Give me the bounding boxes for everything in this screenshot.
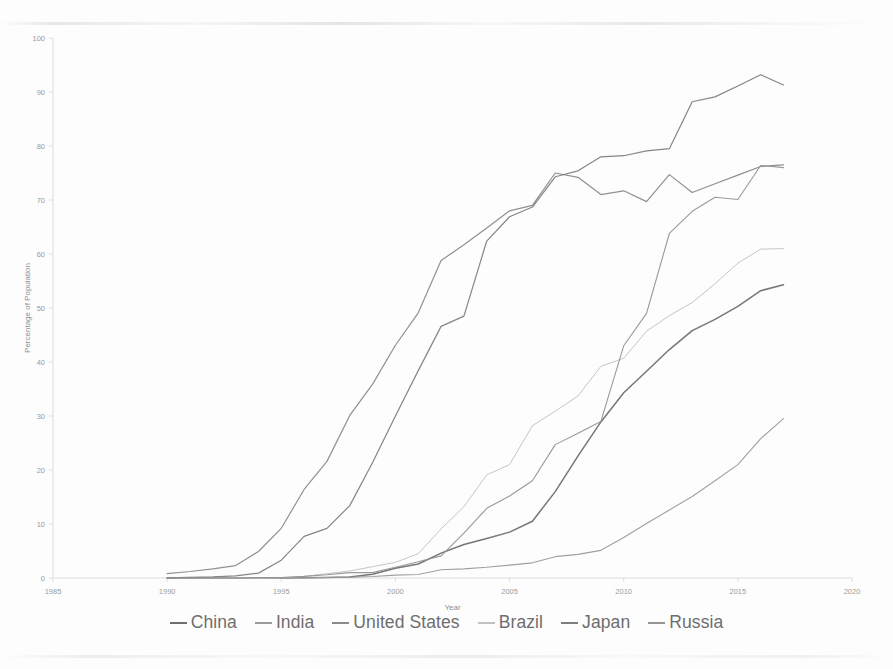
y-tick-label: 50 [37, 304, 45, 313]
legend-item-brazil[interactable]: Brazil [478, 612, 543, 633]
x-tick-label: 2005 [501, 587, 518, 596]
legend-swatch-icon [255, 622, 272, 624]
series-line-united-states [167, 165, 783, 574]
legend-item-india[interactable]: India [255, 612, 314, 633]
y-tick-label: 30 [37, 412, 45, 421]
legend-item-label: United States [353, 612, 459, 633]
y-tick-label: 0 [41, 574, 45, 583]
x-tick-label: 1995 [273, 587, 290, 596]
x-tick-label: 1990 [159, 587, 176, 596]
y-tick-label: 100 [32, 34, 45, 43]
legend-item-label: Russia [669, 612, 723, 633]
x-tick-label: 2020 [844, 587, 861, 596]
series-line-japan [167, 75, 783, 578]
y-tick-label: 90 [37, 88, 45, 97]
legend-item-china[interactable]: China [170, 612, 237, 633]
legend-item-label: China [191, 612, 237, 633]
y-tick-label: 10 [37, 520, 45, 529]
chart-figure: 0102030405060708090100198519901995200020… [0, 0, 893, 669]
legend-item-united-states[interactable]: United States [332, 612, 459, 633]
y-tick-label: 20 [37, 466, 45, 475]
legend-item-label: Japan [582, 612, 630, 633]
x-tick-label: 1985 [45, 587, 62, 596]
legend-swatch-icon [478, 622, 495, 624]
tick-label-layer: 0102030405060708090100198519901995200020… [23, 34, 860, 612]
legend-swatch-icon [561, 622, 578, 624]
x-tick-label: 2010 [615, 587, 632, 596]
legend-item-japan[interactable]: Japan [561, 612, 630, 633]
legend-item-label: Brazil [499, 612, 543, 633]
chart-legend: ChinaIndiaUnited StatesBrazilJapanRussia [0, 612, 893, 633]
x-axis-title: Year [444, 603, 461, 612]
series-line-brazil [167, 249, 783, 578]
y-tick-label: 40 [37, 358, 45, 367]
series-line-china [167, 285, 783, 578]
x-tick-label: 2015 [730, 587, 747, 596]
legend-swatch-icon [332, 622, 349, 624]
y-tick-label: 80 [37, 142, 45, 151]
series-line-russia [167, 165, 783, 578]
legend-swatch-icon [648, 622, 665, 624]
line-chart-plot: 0102030405060708090100198519901995200020… [0, 0, 893, 669]
y-tick-label: 60 [37, 250, 45, 259]
legend-item-russia[interactable]: Russia [648, 612, 723, 633]
x-tick-label: 2000 [387, 587, 404, 596]
y-tick-label: 70 [37, 196, 45, 205]
series-layer [167, 75, 783, 578]
y-axis-title: Percentage of Population [23, 263, 32, 353]
legend-swatch-icon [170, 622, 187, 624]
legend-item-label: India [276, 612, 314, 633]
series-line-india [167, 419, 783, 578]
